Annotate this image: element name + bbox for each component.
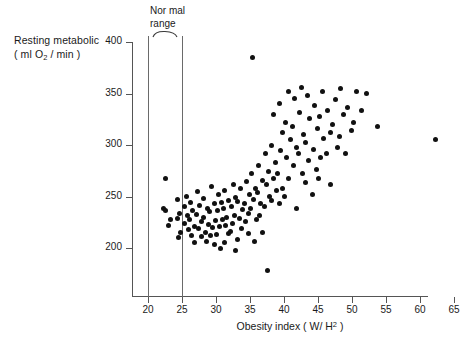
data-point (230, 221, 235, 226)
data-point (364, 91, 369, 96)
data-point (278, 148, 283, 153)
data-point (250, 55, 255, 60)
data-point (166, 223, 171, 228)
data-point (349, 128, 354, 133)
data-point (275, 171, 280, 176)
data-point (300, 171, 305, 176)
data-point (201, 215, 206, 220)
data-point (299, 85, 304, 90)
data-point (345, 105, 350, 110)
data-point (328, 130, 333, 135)
data-point (209, 184, 214, 189)
data-point (184, 194, 189, 199)
data-point (286, 89, 291, 94)
data-point (187, 217, 192, 222)
data-point (314, 167, 319, 172)
data-point (226, 198, 231, 203)
data-point (212, 201, 217, 206)
data-point (221, 206, 226, 211)
data-point (196, 226, 201, 231)
data-point (325, 108, 330, 113)
data-point (197, 203, 202, 208)
data-point (194, 212, 199, 217)
data-point (231, 182, 236, 187)
data-point (320, 89, 325, 94)
data-point (271, 112, 276, 117)
data-point (290, 124, 295, 129)
data-point (244, 179, 249, 184)
data-point (283, 120, 288, 125)
data-point (216, 192, 221, 197)
data-point (375, 124, 380, 129)
data-point (213, 218, 218, 223)
data-point (182, 221, 187, 226)
data-point (175, 197, 180, 202)
data-point (215, 208, 220, 213)
data-point (305, 93, 310, 98)
data-point (168, 217, 173, 222)
data-point (163, 208, 168, 213)
data-point (288, 137, 293, 142)
data-point (341, 112, 346, 117)
data-point (310, 192, 315, 197)
data-point (284, 155, 289, 160)
data-point (316, 176, 321, 181)
data-point (222, 240, 227, 245)
data-point (294, 206, 299, 211)
data-point (318, 155, 323, 160)
data-point (242, 201, 247, 206)
data-point (260, 230, 265, 235)
data-point (328, 182, 333, 187)
data-point (195, 189, 200, 194)
data-point (307, 116, 312, 121)
data-point (274, 188, 279, 193)
data-point (351, 120, 356, 125)
data-point (282, 194, 287, 199)
data-point (228, 229, 233, 234)
data-point (182, 204, 187, 209)
data-point (280, 186, 285, 191)
data-point (189, 233, 194, 238)
data-point (208, 233, 213, 238)
data-point (354, 89, 359, 94)
data-point (214, 232, 219, 237)
data-point (243, 219, 248, 224)
data-point (312, 103, 317, 108)
data-point (306, 158, 311, 163)
data-point (292, 96, 297, 101)
data-point (335, 145, 340, 150)
data-point (229, 204, 234, 209)
data-point (359, 108, 364, 113)
data-point (238, 186, 243, 191)
data-point (249, 171, 254, 176)
data-point (263, 151, 268, 156)
data-point (269, 143, 274, 148)
data-point (266, 169, 271, 174)
data-point (201, 196, 206, 201)
data-point (235, 237, 240, 242)
data-point (277, 101, 282, 106)
data-point (343, 151, 348, 156)
data-point (330, 122, 335, 127)
data-point (271, 176, 276, 181)
data-point (188, 200, 193, 205)
data-point (210, 225, 215, 230)
data-point (294, 145, 299, 150)
data-point (286, 176, 291, 181)
data-point (264, 182, 269, 187)
data-point (303, 140, 308, 145)
data-point (303, 180, 308, 185)
data-point (222, 188, 227, 193)
data-point (317, 114, 322, 119)
data-point (246, 211, 251, 216)
data-point (277, 201, 282, 206)
data-point (163, 176, 168, 181)
data-point (223, 223, 228, 228)
data-point (175, 216, 180, 221)
data-point (237, 216, 242, 221)
data-point (311, 147, 316, 152)
data-point (240, 207, 245, 212)
data-point (297, 110, 302, 115)
